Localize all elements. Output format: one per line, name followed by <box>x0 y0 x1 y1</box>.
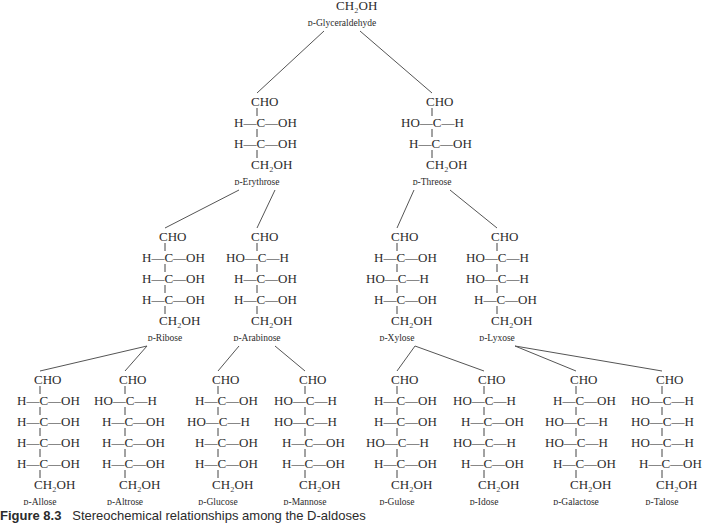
hydroxymethyl-group: CH₂OH <box>34 478 75 491</box>
hydroxymethyl-group: CH₂OH <box>656 478 697 491</box>
chiral-center-right-oh: H—C—OH <box>142 251 205 264</box>
molecule-name: ᴅ-Idose <box>470 497 499 507</box>
chiral-center-right-oh: H—C—OH <box>142 293 205 306</box>
figure-label: Figure 8.3 <box>0 508 61 523</box>
chiral-center-right-oh: H—C—OH <box>234 293 297 306</box>
chiral-center-right-oh: H—C—OH <box>409 137 472 150</box>
branch-lyxose-to-talose <box>515 346 662 371</box>
figure-caption-text: Stereochemical relationships among the D… <box>72 508 365 523</box>
hydroxymethyl-group: CH₂OH <box>391 314 432 327</box>
chiral-center-left-oh: HO—C—H <box>453 394 516 407</box>
molecule-name: ᴅ-Erythrose <box>234 177 279 187</box>
aldehyde-group: CHO <box>656 373 683 386</box>
molecule-name: ᴅ-Glucose <box>198 497 237 507</box>
hydroxymethyl-group: CH₂OH <box>336 0 377 12</box>
chiral-center-left-oh: HO—C—H <box>631 436 694 449</box>
aldehyde-group: CHO <box>299 373 326 386</box>
hydroxymethyl-group: CH₂OH <box>251 158 292 171</box>
chiral-center-right-oh: H—C—OH <box>282 457 345 470</box>
hydroxymethyl-group: CH₂OH <box>159 314 200 327</box>
chiral-center-right-oh: H—C—OH <box>639 457 702 470</box>
chiral-center-right-oh: H—C—OH <box>234 272 297 285</box>
molecule-name: ᴅ-Mannose <box>284 497 327 507</box>
chiral-center-right-oh: H—C—OH <box>461 415 524 428</box>
chiral-center-left-oh: HO—C—H <box>631 415 694 428</box>
aldehyde-group: CHO <box>251 230 278 243</box>
chiral-center-left-oh: HO—C—H <box>401 116 464 129</box>
molecule-name: ᴅ-Allose <box>24 497 57 507</box>
branch-erythrose-to-ribose <box>165 190 239 228</box>
figure-caption: Figure 8.3 Stereochemical relationships … <box>0 508 366 523</box>
molecule-name: ᴅ-Ribose <box>148 333 183 343</box>
chiral-center-right-oh: H—C—OH <box>374 394 437 407</box>
chiral-center-right-oh: H—C—OH <box>553 394 616 407</box>
branch-lyxose-to-galactose <box>515 346 576 371</box>
chiral-center-left-oh: HO—C—H <box>466 272 529 285</box>
branch-glyceraldehyde-to-erythrose <box>257 31 324 93</box>
molecule-name: ᴅ-Talose <box>646 497 679 507</box>
branch-ribose-to-altrose <box>125 346 147 371</box>
chiral-center-left-oh: HO—C—H <box>366 272 429 285</box>
molecule-name: ᴅ-Lyxose <box>479 333 515 343</box>
chiral-center-right-oh: H—C—OH <box>461 457 524 470</box>
chiral-center-right-oh: H—C—OH <box>553 457 616 470</box>
chiral-center-left-oh: HO—C—H <box>545 436 608 449</box>
aldehyde-group: CHO <box>478 373 505 386</box>
chiral-center-left-oh: HO—C—H <box>545 415 608 428</box>
chiral-center-right-oh: H—C—OH <box>17 436 80 449</box>
aldehyde-group: CHO <box>251 95 278 108</box>
branch-glyceraldehyde-to-threose <box>360 31 432 93</box>
hydroxymethyl-group: CH₂OH <box>426 158 467 171</box>
chiral-center-right-oh: H—C—OH <box>195 394 258 407</box>
hydroxymethyl-group: CH₂OH <box>491 314 532 327</box>
branch-threose-to-xylose <box>397 190 414 228</box>
hydroxymethyl-group: CH₂OH <box>570 478 611 491</box>
aldehyde-group: CHO <box>34 373 61 386</box>
chiral-center-left-oh: HO—C—H <box>366 436 429 449</box>
branch-arabinose-to-glucose <box>218 346 239 371</box>
chiral-center-left-oh: HO—C—H <box>274 415 337 428</box>
chiral-center-right-oh: H—C—OH <box>374 293 437 306</box>
chiral-center-left-oh: HO—C—H <box>226 251 289 264</box>
aldehyde-group: CHO <box>570 373 597 386</box>
chiral-center-right-oh: H—C—OH <box>282 436 345 449</box>
chiral-center-right-oh: H—C—OH <box>195 436 258 449</box>
molecule-name: ᴅ-Glyceraldehyde <box>308 18 376 28</box>
hydroxymethyl-group: CH₂OH <box>251 314 292 327</box>
hydroxymethyl-group: CH₂OH <box>391 478 432 491</box>
aldehyde-group: CHO <box>391 230 418 243</box>
chiral-center-right-oh: H—C—OH <box>474 293 537 306</box>
branch-xylose-to-idose <box>415 346 484 371</box>
hydroxymethyl-group: CH₂OH <box>299 478 340 491</box>
aldehyde-group: CHO <box>426 95 453 108</box>
branch-erythrose-to-arabinose <box>257 190 275 228</box>
chiral-center-left-oh: HO—C—H <box>274 394 337 407</box>
chiral-center-right-oh: H—C—OH <box>17 415 80 428</box>
aldehyde-group: CHO <box>391 373 418 386</box>
aldehyde-group: CHO <box>159 230 186 243</box>
chiral-center-right-oh: H—C—OH <box>142 272 205 285</box>
branch-arabinose-to-mannose <box>275 346 305 371</box>
chiral-center-right-oh: H—C—OH <box>234 116 297 129</box>
chiral-center-right-oh: H—C—OH <box>102 436 165 449</box>
chiral-center-right-oh: H—C—OH <box>17 394 80 407</box>
chiral-center-left-oh: HO—C—H <box>187 415 250 428</box>
molecule-name: ᴅ-Arabinose <box>233 333 280 343</box>
hydroxymethyl-group: CH₂OH <box>212 478 253 491</box>
chiral-center-left-oh: HO—C—H <box>466 251 529 264</box>
chiral-center-right-oh: H—C—OH <box>102 415 165 428</box>
molecule-name: ᴅ-Xylose <box>379 333 414 343</box>
chiral-center-right-oh: H—C—OH <box>17 457 80 470</box>
chiral-center-right-oh: H—C—OH <box>374 251 437 264</box>
chiral-center-right-oh: H—C—OH <box>195 457 258 470</box>
chiral-center-left-oh: HO—C—H <box>631 394 694 407</box>
molecule-name: ᴅ-Gulose <box>379 497 414 507</box>
molecule-name: ᴅ-Galactose <box>553 497 599 507</box>
chiral-center-right-oh: H—C—OH <box>234 137 297 150</box>
chiral-center-left-oh: HO—C—H <box>453 436 516 449</box>
aldehyde-group: CHO <box>212 373 239 386</box>
branch-threose-to-lyxose <box>450 190 497 228</box>
aldehyde-group: CHO <box>119 373 146 386</box>
chiral-center-left-oh: HO—C—H <box>94 394 157 407</box>
chiral-center-right-oh: H—C—OH <box>102 457 165 470</box>
